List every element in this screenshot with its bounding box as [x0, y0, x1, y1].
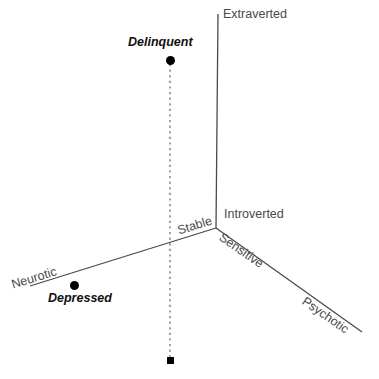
axis-label-introverted: Introverted: [224, 208, 284, 221]
point-marker-delinquent: [166, 56, 175, 65]
point-label-delinquent: Delinquent: [128, 36, 193, 49]
axis-line-vertical: [216, 14, 218, 228]
diagram-canvas: Extraverted Introverted Stable Neurotic …: [0, 0, 379, 379]
axis-label-extraverted: Extraverted: [223, 8, 287, 21]
projection-foot-marker: [167, 357, 174, 364]
point-label-depressed: Depressed: [48, 292, 112, 305]
point-marker-depressed: [70, 281, 79, 290]
